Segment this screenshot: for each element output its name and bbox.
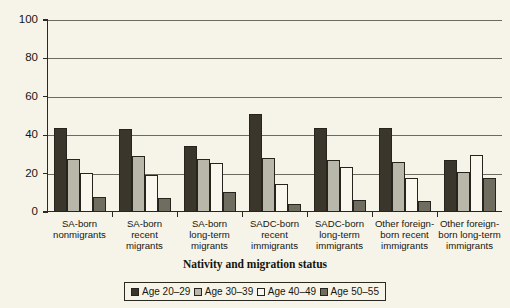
bar-group xyxy=(242,20,307,212)
bar xyxy=(457,172,470,212)
x-axis-title: Nativity and migration status xyxy=(0,258,510,270)
x-axis-category-label: Other foreign-born recentimmigrants xyxy=(372,218,437,252)
category-label-line: long-term xyxy=(178,229,241,240)
bar-groups xyxy=(47,20,502,212)
bar xyxy=(314,128,327,212)
x-axis-tick-mark xyxy=(437,212,438,217)
legend-swatch-icon xyxy=(194,288,202,296)
category-label-line: migrants xyxy=(178,240,241,251)
legend-label: Age 20–29 xyxy=(142,286,190,297)
y-axis-tick-label: 0 xyxy=(0,206,38,218)
bar xyxy=(483,178,496,212)
x-axis-tick-mark xyxy=(372,212,373,217)
legend-item[interactable]: Age 50–55 xyxy=(320,286,379,297)
category-label-line: SADC-born xyxy=(308,218,371,229)
category-label-line: Other foreign- xyxy=(438,218,501,229)
x-axis-category-label: SADC-bornlong-termimmigrants xyxy=(307,218,372,252)
bar xyxy=(288,204,301,212)
category-label-line: immigrants xyxy=(243,240,306,251)
category-label-line: SA-born xyxy=(48,218,111,229)
category-label-line: long-term xyxy=(308,229,371,240)
legend-swatch-icon xyxy=(257,288,265,296)
legend-item[interactable]: Age 30–39 xyxy=(194,286,253,297)
bar xyxy=(54,128,67,212)
bar xyxy=(379,128,392,212)
x-axis-category-labels: SA-bornnonmigrantsSA-bornrecentmigrantsS… xyxy=(47,218,502,252)
category-label-line: SA-born xyxy=(178,218,241,229)
legend-label: Age 30–39 xyxy=(205,286,253,297)
bar xyxy=(275,184,288,212)
bar xyxy=(132,156,145,212)
category-label-line: Other foreign- xyxy=(373,218,436,229)
bar xyxy=(470,155,483,212)
bar-group xyxy=(437,20,502,212)
legend-item[interactable]: Age 40–49 xyxy=(257,286,316,297)
x-axis-tick-mark xyxy=(242,212,243,217)
legend-item[interactable]: Age 20–29 xyxy=(131,286,190,297)
x-axis-category-label: SADC-bornrecentimmigrants xyxy=(242,218,307,252)
x-axis-category-label: SA-bornrecentmigrants xyxy=(112,218,177,252)
category-label-line: SA-born xyxy=(113,218,176,229)
y-axis-tick-label: 20 xyxy=(0,168,38,180)
legend-swatch-icon xyxy=(320,288,328,296)
legend-label: Age 40–49 xyxy=(268,286,316,297)
bar xyxy=(80,173,93,212)
x-axis-tick-mark xyxy=(177,212,178,217)
bar-group xyxy=(112,20,177,212)
y-axis-tick-label: 60 xyxy=(0,91,38,103)
x-axis-category-label: SA-bornnonmigrants xyxy=(47,218,112,252)
x-axis-category-label: Other foreign-born long-termimmigrants xyxy=(437,218,502,252)
category-label-line: born long-term xyxy=(438,229,501,240)
bar xyxy=(340,167,353,212)
legend-swatch-icon xyxy=(131,288,139,296)
bar xyxy=(223,192,236,212)
category-label-line: nonmigrants xyxy=(48,229,111,240)
bar-group xyxy=(177,20,242,212)
bar xyxy=(249,114,262,212)
bar xyxy=(93,197,106,212)
legend-label: Age 50–55 xyxy=(331,286,379,297)
x-axis-tick-mark xyxy=(307,212,308,217)
bar-chart: 020406080100 SA-bornnonmigrantsSA-bornre… xyxy=(0,0,510,308)
bar xyxy=(405,178,418,212)
bar xyxy=(262,158,275,212)
bar-group xyxy=(307,20,372,212)
y-axis-tick-label: 80 xyxy=(0,52,38,64)
bar xyxy=(210,163,223,212)
category-label-line: immigrants xyxy=(308,240,371,251)
chart-legend: Age 20–29Age 30–39Age 40–49Age 50–55 xyxy=(124,282,386,301)
category-label-line: recent xyxy=(113,229,176,240)
x-axis-category-label: SA-bornlong-termmigrants xyxy=(177,218,242,252)
bar xyxy=(158,198,171,212)
bar xyxy=(145,175,158,212)
y-axis-tick-label: 100 xyxy=(0,14,38,26)
category-label-line: born recent xyxy=(373,229,436,240)
bar xyxy=(392,162,405,212)
bar xyxy=(197,159,210,212)
category-label-line: immigrants xyxy=(438,240,501,251)
bar xyxy=(353,200,366,212)
bar xyxy=(184,146,197,212)
category-label-line: migrants xyxy=(113,240,176,251)
x-axis-tick-mark xyxy=(112,212,113,217)
bar xyxy=(119,129,132,212)
bar xyxy=(418,201,431,212)
category-label-line: immigrants xyxy=(373,240,436,251)
bar xyxy=(67,159,80,212)
bar xyxy=(444,160,457,212)
bar xyxy=(327,160,340,212)
bar-group xyxy=(47,20,112,212)
category-label-line: SADC-born xyxy=(243,218,306,229)
category-label-line: recent xyxy=(243,229,306,240)
bar-group xyxy=(372,20,437,212)
y-axis-tick-label: 40 xyxy=(0,129,38,141)
